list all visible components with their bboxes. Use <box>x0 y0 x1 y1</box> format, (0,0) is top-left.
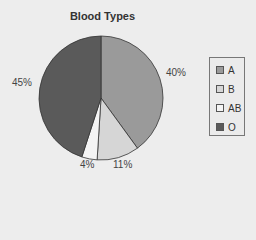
label-o: 45% <box>12 77 32 88</box>
legend-label: B <box>228 84 235 95</box>
label-ab: 4% <box>80 159 94 170</box>
label-b: 11% <box>113 159 132 170</box>
swatch-b <box>216 85 224 93</box>
swatch-a <box>216 66 224 74</box>
label-a: 40% <box>166 67 186 78</box>
legend-label: O <box>228 122 236 133</box>
legend-item-a: A <box>216 64 235 76</box>
legend-item-ab: AB <box>216 102 241 114</box>
swatch-o <box>216 123 224 131</box>
legend: A B AB O <box>209 57 245 136</box>
legend-label: AB <box>228 103 241 114</box>
legend-item-b: B <box>216 83 235 95</box>
legend-item-o: O <box>216 121 236 133</box>
legend-label: A <box>228 65 235 76</box>
swatch-ab <box>216 104 224 112</box>
